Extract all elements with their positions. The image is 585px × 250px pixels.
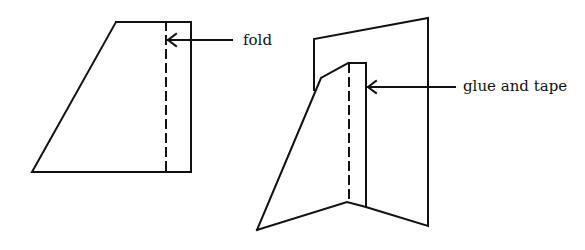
fold-label: fold (243, 31, 272, 49)
diagram-canvas (0, 0, 585, 250)
folded-panel-shape (257, 18, 455, 230)
glue-and-tape-label: glue and tape (463, 77, 567, 95)
flat-panel-shape (32, 22, 232, 172)
